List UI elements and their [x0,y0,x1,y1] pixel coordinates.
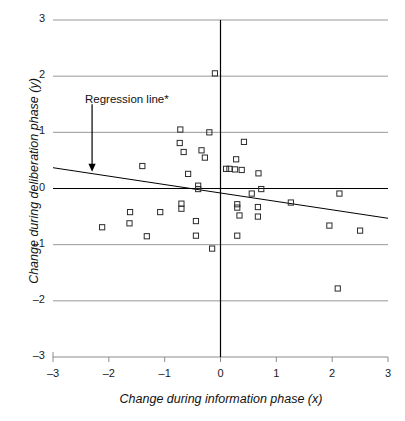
data-point [210,246,215,251]
data-point [223,166,228,171]
data-point [179,201,184,206]
data-point [158,209,163,214]
x-axis-title: Change during information phase (x) [53,392,389,406]
data-point [234,157,239,162]
data-point [327,223,332,228]
x-tick-label--2: –2 [96,367,122,379]
data-point [235,202,240,207]
data-point [241,139,246,144]
data-point [232,167,237,172]
annotation-arrow-group [88,104,95,171]
x-tick-label-2: 2 [319,367,345,379]
y-tick-label-3: 3 [23,12,45,24]
y-tick-label-2: 2 [23,68,45,80]
data-point [255,204,260,209]
data-point [237,213,242,218]
data-point [337,191,342,196]
data-point [199,148,204,153]
y-tick-label-0: 0 [23,181,45,193]
x-tick-label-0: 0 [208,367,234,379]
data-point [179,206,184,211]
data-point [335,286,340,291]
data-point [249,191,254,196]
data-point [100,225,105,230]
data-point [127,221,132,226]
data-point [235,205,240,210]
data-point [177,140,182,145]
x-tick-label-3: 3 [375,367,401,379]
data-point [140,163,145,168]
data-point [239,167,244,172]
x-tick-label--1: –1 [152,367,178,379]
data-point [212,71,217,76]
data-point [256,171,261,176]
regression-line-annotation: Regression line* [85,93,169,105]
data-point [144,234,149,239]
y-tick-label--2: –2 [23,293,45,305]
data-point [193,233,198,238]
x-tick-label--3: –3 [40,367,66,379]
data-point [178,127,183,132]
data-point [202,155,207,160]
scatter-plot-figure: Change during deliberation phase (y) Cha… [0,0,405,421]
data-point [255,214,260,219]
data-point [196,183,201,188]
data-point [227,166,232,171]
y-tick-label-1: 1 [23,124,45,136]
data-point [235,233,240,238]
annotation-arrow-head [88,164,95,172]
data-point [193,218,198,223]
data-point [181,149,186,154]
data-point [127,209,132,214]
plot-canvas [0,0,405,421]
data-point [186,171,191,176]
y-tick-label--1: –1 [23,237,45,249]
x-tick-label-1: 1 [263,367,289,379]
y-tick-label--3: –3 [23,349,45,361]
data-point [357,228,362,233]
